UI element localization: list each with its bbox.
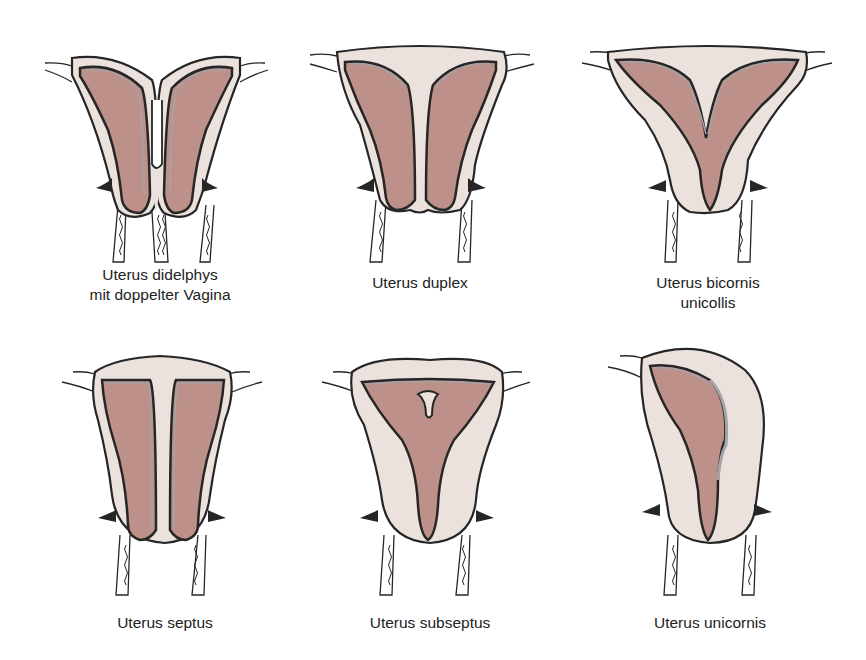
panel-uterus-duplex: Uterus duplex: [290, 0, 580, 320]
uterus-subseptus-illustration: [290, 330, 580, 660]
caption-uterus-septus: Uterus septus: [65, 613, 265, 633]
panel-uterus-bicornis-unicollis: Uterus bicornis unicollis: [570, 0, 866, 320]
uterus-bicornis-unicollis-illustration: [570, 0, 866, 320]
panel-uterus-subseptus: Uterus subseptus: [290, 330, 580, 660]
uterus-unicornis-illustration: [580, 330, 866, 660]
panel-uterus-didelphys: Uterus didelphys mit doppelter Vagina: [0, 0, 290, 320]
caption-uterus-duplex: Uterus duplex: [320, 273, 520, 293]
panel-uterus-septus: Uterus septus: [0, 330, 290, 660]
caption-uterus-subseptus: Uterus subseptus: [330, 613, 530, 633]
uterus-septus-illustration: [0, 330, 290, 660]
panel-uterus-unicornis: Uterus unicornis: [580, 330, 866, 660]
uterus-duplex-illustration: [290, 0, 580, 320]
caption-uterus-didelphys: Uterus didelphys mit doppelter Vagina: [60, 265, 260, 305]
caption-uterus-bicornis-unicollis: Uterus bicornis unicollis: [608, 273, 808, 313]
caption-uterus-unicornis: Uterus unicornis: [610, 613, 810, 633]
